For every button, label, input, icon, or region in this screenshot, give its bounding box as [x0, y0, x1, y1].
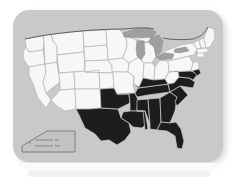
state-wyoming: [57, 52, 85, 73]
legend-scale-label-mi: mi: [55, 138, 59, 142]
card-reflection-lower: [28, 170, 210, 177]
state-south-dakota: [84, 45, 108, 61]
legend-scale-label-km: km: [55, 144, 60, 148]
scale-legend: mi km 0: [22, 131, 75, 152]
us-map-svg: mi km 0: [13, 10, 223, 162]
northeast-outline: [163, 27, 208, 40]
card-reflection-upper: [20, 163, 218, 168]
legend-scale-zero: 0: [29, 141, 31, 145]
state-arizona: [51, 89, 76, 111]
state-florida: [157, 122, 184, 149]
map-card: mi km 0: [13, 10, 223, 162]
lake-superior: [123, 28, 156, 38]
state-georgia: [160, 92, 177, 123]
state-colorado: [74, 70, 100, 89]
map-figure: mi km 0: [0, 0, 238, 179]
state-new-mexico: [75, 89, 101, 109]
state-north-dakota: [83, 30, 107, 47]
state-connecticut: [197, 53, 204, 57]
state-indiana: [143, 63, 155, 80]
